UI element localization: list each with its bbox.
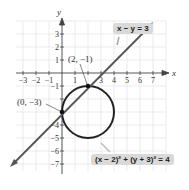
svg-text:1: 1 xyxy=(55,56,59,65)
x-axis-label: x xyxy=(171,68,176,78)
y-axis-label: y xyxy=(56,7,61,17)
point-2-neg1 xyxy=(86,84,91,89)
leader-2-neg1 xyxy=(80,64,87,84)
svg-text:−2: −2 xyxy=(32,76,41,85)
leader-line-label xyxy=(117,37,119,45)
svg-text:−1: −1 xyxy=(50,82,59,91)
svg-text:−7: −7 xyxy=(50,160,59,169)
point-0-neg3 xyxy=(60,110,65,115)
point-label-0-neg3: (0, −3) xyxy=(17,97,42,107)
svg-text:6: 6 xyxy=(138,76,142,85)
line-x-minus-y-3 xyxy=(10,22,153,167)
y-tick-labels: 321 −1−4 −5−6−7 xyxy=(50,30,59,169)
svg-text:2: 2 xyxy=(55,43,59,52)
svg-text:5: 5 xyxy=(125,76,129,85)
line-equation-label: x − y = 3 xyxy=(113,23,153,34)
svg-text:1: 1 xyxy=(73,76,77,85)
point-label-2-neg1: (2, −1) xyxy=(68,54,93,64)
leader-0-neg3 xyxy=(46,104,60,111)
svg-text:−3: −3 xyxy=(19,76,28,85)
svg-text:4: 4 xyxy=(112,76,116,85)
svg-text:−5: −5 xyxy=(50,134,59,143)
grid xyxy=(16,21,166,171)
circle-equation-label: (x − 2)² + (y + 3)² = 4 xyxy=(91,154,174,165)
svg-text:3: 3 xyxy=(55,30,59,39)
svg-text:7: 7 xyxy=(151,76,155,85)
svg-text:−6: −6 xyxy=(50,147,59,156)
